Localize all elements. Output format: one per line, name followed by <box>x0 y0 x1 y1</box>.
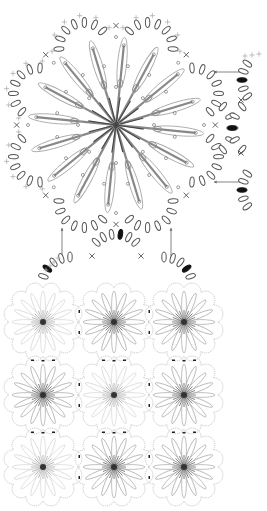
chain-oval-icon <box>237 78 247 82</box>
single-crochet-icon <box>43 52 48 57</box>
chain-oval-icon <box>124 26 134 36</box>
motif-center <box>181 392 187 398</box>
chain-oval-icon <box>229 112 240 120</box>
chain-oval-icon <box>176 257 185 268</box>
chain-oval-icon <box>189 177 194 187</box>
arrowhead-icon <box>61 228 64 231</box>
chain-oval-icon <box>10 163 21 171</box>
grid-motif-r3-c2 <box>75 428 153 506</box>
chain-oval-icon <box>10 99 21 107</box>
chain-oval-icon <box>218 144 228 155</box>
slip-stitch-icon <box>56 112 59 115</box>
slip-stitch-icon <box>64 157 67 160</box>
grid-motif-r2-c3 <box>145 356 223 434</box>
chain-oval-icon <box>61 215 71 225</box>
chain-oval-icon <box>90 220 98 231</box>
chain-oval-icon <box>61 25 71 35</box>
motif-center <box>111 319 117 325</box>
slip-stitch-icon <box>103 182 106 185</box>
edge-stitch-icon <box>10 174 15 179</box>
grid-motif-r1-c1 <box>4 283 82 361</box>
edge-stitch-icon <box>150 13 155 18</box>
chain-oval-icon <box>242 202 253 211</box>
single-crochet-icon <box>184 52 189 57</box>
chain-oval-icon <box>206 70 216 80</box>
slip-stitch-icon <box>88 150 91 153</box>
slip-stitch-icon <box>115 212 118 215</box>
slip-stitch-icon <box>165 90 168 93</box>
motif-layout-grid <box>4 283 223 506</box>
chain-oval-icon <box>42 264 53 273</box>
slip-stitch-icon <box>148 174 151 177</box>
single-crochet-icon <box>184 193 189 198</box>
chain-oval-icon <box>38 273 49 280</box>
diagram-svg <box>0 0 267 511</box>
chain-oval-icon <box>206 170 216 180</box>
chain-oval-icon <box>145 223 150 233</box>
chain-oval-icon <box>17 133 27 143</box>
motif-center <box>111 392 117 398</box>
chain-oval-icon <box>8 154 18 159</box>
slip-stitch-icon <box>115 86 118 89</box>
chain-oval-icon <box>10 142 21 150</box>
slip-stitch-icon <box>141 150 144 153</box>
single-crochet-icon <box>89 253 94 258</box>
chain-oval-icon <box>166 207 177 215</box>
edge-stitch-icon <box>165 19 170 24</box>
chain-oval-icon <box>133 220 141 231</box>
slip-stitch-icon <box>153 124 156 127</box>
slip-stitch-icon <box>141 97 144 100</box>
slip-stitch-icon <box>177 61 180 64</box>
chain-oval-icon <box>16 70 26 80</box>
arrowhead-icon <box>214 181 217 184</box>
motif-center <box>40 392 46 398</box>
slip-stitch-icon <box>173 135 176 138</box>
chain-oval-icon <box>242 59 253 68</box>
single-crochet-icon <box>113 23 118 28</box>
edge-stitch-icon <box>62 19 67 24</box>
slip-stitch-icon <box>77 124 80 127</box>
grid-motif-r1-c2 <box>75 283 153 361</box>
chain-oval-icon <box>90 19 98 30</box>
edge-stitch-icon <box>77 13 82 18</box>
single-crochet-icon <box>113 222 118 227</box>
edge-stitch-icon <box>242 53 247 58</box>
chain-oval-icon <box>10 79 21 87</box>
arrowhead-icon <box>170 228 173 231</box>
chain-oval-icon <box>242 92 253 101</box>
chain-oval-icon <box>229 136 240 144</box>
slip-stitch-icon <box>115 36 118 39</box>
edge-stitch-icon <box>10 71 15 76</box>
single-crochet-icon <box>238 97 243 102</box>
treble-stitch-icon <box>45 87 112 123</box>
chain-oval-icon <box>26 175 34 186</box>
slip-stitch-icon <box>126 65 129 68</box>
chain-oval-icon <box>198 64 206 75</box>
edge-stitch-icon <box>133 15 138 20</box>
chain-oval-icon <box>185 273 196 280</box>
single-crochet-icon <box>43 193 48 198</box>
chain-oval-icon <box>131 237 141 247</box>
slip-stitch-icon <box>88 97 91 100</box>
chain-oval-icon <box>26 64 34 75</box>
grid-motif-r2-c2 <box>75 356 153 434</box>
chain-oval-icon <box>91 237 101 247</box>
chain-oval-icon <box>82 223 87 233</box>
chain-oval-icon <box>97 26 107 36</box>
slip-stitch-icon <box>203 124 206 127</box>
slip-stitch-icon <box>177 186 180 189</box>
slip-stitch-icon <box>115 162 118 165</box>
chain-oval-icon <box>117 229 123 240</box>
main-motif-chart <box>4 13 224 233</box>
chain-oval-icon <box>82 17 87 27</box>
chain-oval-icon <box>161 25 171 35</box>
grid-motif-r3-c1 <box>4 428 82 506</box>
single-crochet-icon <box>14 122 19 127</box>
edge-stitch-icon <box>106 25 111 30</box>
edge-stitch-icon <box>16 129 21 134</box>
chain-oval-icon <box>169 253 176 264</box>
edge-stitch-icon <box>249 52 254 57</box>
chain-oval-icon <box>237 188 247 192</box>
chain-oval-icon <box>198 175 206 186</box>
chain-oval-icon <box>133 19 141 30</box>
